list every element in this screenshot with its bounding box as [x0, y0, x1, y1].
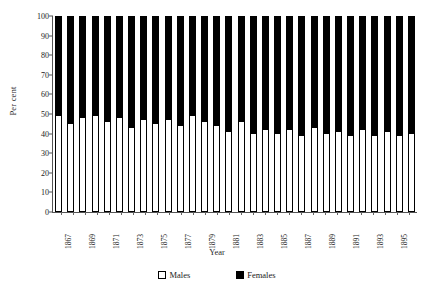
- bar-segment-males[interactable]: [79, 118, 86, 212]
- bar-1874[interactable]: [140, 16, 147, 212]
- bar-segment-males[interactable]: [213, 126, 220, 212]
- x-axis-tick-mark: [349, 212, 350, 215]
- bar-segment-males[interactable]: [311, 128, 318, 212]
- bar-segment-females[interactable]: [201, 16, 208, 122]
- bar-segment-males[interactable]: [408, 134, 415, 212]
- bar-1894[interactable]: [384, 16, 391, 212]
- x-axis-tick-mark: [301, 212, 302, 215]
- bar-1891[interactable]: [347, 16, 354, 212]
- bar-1890[interactable]: [335, 16, 342, 212]
- bar-segment-males[interactable]: [201, 122, 208, 212]
- bar-1878[interactable]: [189, 16, 196, 212]
- bar-segment-males[interactable]: [104, 122, 111, 212]
- bar-segment-females[interactable]: [250, 16, 257, 134]
- y-axis-tick-mark: [49, 212, 53, 213]
- bar-segment-females[interactable]: [347, 16, 354, 136]
- bar-segment-females[interactable]: [371, 16, 378, 136]
- bar-1883[interactable]: [250, 16, 257, 212]
- bar-segment-females[interactable]: [67, 16, 74, 124]
- chart-legend: Males Females: [0, 270, 434, 280]
- bar-1888[interactable]: [311, 16, 318, 212]
- bar-segment-males[interactable]: [140, 120, 147, 212]
- bar-segment-females[interactable]: [140, 16, 147, 120]
- bar-segment-females[interactable]: [384, 16, 391, 132]
- bar-segment-females[interactable]: [104, 16, 111, 122]
- bar-segment-males[interactable]: [128, 128, 135, 212]
- bar-segment-females[interactable]: [396, 16, 403, 136]
- bar-segment-males[interactable]: [262, 130, 269, 212]
- bar-segment-males[interactable]: [116, 118, 123, 212]
- bar-1868[interactable]: [67, 16, 74, 212]
- bar-1885[interactable]: [274, 16, 281, 212]
- x-axis-tick-mark: [325, 212, 326, 215]
- bar-segment-females[interactable]: [359, 16, 366, 130]
- bar-segment-males[interactable]: [384, 132, 391, 212]
- bar-segment-females[interactable]: [286, 16, 293, 130]
- bar-segment-males[interactable]: [55, 116, 62, 212]
- bar-1873[interactable]: [128, 16, 135, 212]
- bar-1880[interactable]: [213, 16, 220, 212]
- bar-segment-males[interactable]: [250, 134, 257, 212]
- bar-segment-females[interactable]: [55, 16, 62, 116]
- bar-segment-males[interactable]: [286, 130, 293, 212]
- bar-1879[interactable]: [201, 16, 208, 212]
- bar-1895[interactable]: [396, 16, 403, 212]
- bar-segment-females[interactable]: [335, 16, 342, 132]
- bar-segment-males[interactable]: [152, 124, 159, 212]
- bar-1886[interactable]: [286, 16, 293, 212]
- bar-segment-males[interactable]: [274, 134, 281, 212]
- bar-1872[interactable]: [116, 16, 123, 212]
- bar-segment-males[interactable]: [67, 124, 74, 212]
- bar-1893[interactable]: [371, 16, 378, 212]
- bar-segment-males[interactable]: [323, 134, 330, 212]
- bar-segment-males[interactable]: [298, 136, 305, 212]
- bar-1869[interactable]: [79, 16, 86, 212]
- bar-segment-females[interactable]: [165, 16, 172, 120]
- x-axis-tick-mark: [277, 212, 278, 215]
- bar-1889[interactable]: [323, 16, 330, 212]
- bar-segment-males[interactable]: [396, 136, 403, 212]
- bar-1876[interactable]: [165, 16, 172, 212]
- x-axis-tick-mark: [289, 212, 290, 215]
- bar-segment-females[interactable]: [298, 16, 305, 136]
- bar-segment-females[interactable]: [274, 16, 281, 134]
- bar-1871[interactable]: [104, 16, 111, 212]
- x-axis-tick-mark: [73, 212, 74, 215]
- bar-1887[interactable]: [298, 16, 305, 212]
- bar-segment-males[interactable]: [189, 116, 196, 212]
- bar-segment-females[interactable]: [177, 16, 184, 126]
- bar-segment-males[interactable]: [371, 136, 378, 212]
- bar-segment-females[interactable]: [92, 16, 99, 116]
- bar-segment-females[interactable]: [189, 16, 196, 116]
- bar-segment-females[interactable]: [408, 16, 415, 134]
- bar-segment-females[interactable]: [323, 16, 330, 134]
- bar-segment-males[interactable]: [359, 130, 366, 212]
- bar-segment-females[interactable]: [311, 16, 318, 128]
- bar-1867[interactable]: [55, 16, 62, 212]
- bar-1875[interactable]: [152, 16, 159, 212]
- bar-segment-males[interactable]: [335, 132, 342, 212]
- bar-segment-females[interactable]: [79, 16, 86, 118]
- bar-segment-females[interactable]: [262, 16, 269, 130]
- bar-segment-females[interactable]: [152, 16, 159, 124]
- bar-1884[interactable]: [262, 16, 269, 212]
- bar-segment-males[interactable]: [92, 116, 99, 212]
- bar-segment-males[interactable]: [238, 122, 245, 212]
- x-axis-tick-mark: [157, 212, 158, 215]
- y-axis-tick-label: 90: [19, 31, 49, 40]
- bar-segment-males[interactable]: [225, 132, 232, 212]
- bar-1882[interactable]: [238, 16, 245, 212]
- bar-segment-females[interactable]: [213, 16, 220, 126]
- bar-segment-females[interactable]: [238, 16, 245, 122]
- bar-1892[interactable]: [359, 16, 366, 212]
- bar-1896[interactable]: [408, 16, 415, 212]
- bar-segment-females[interactable]: [128, 16, 135, 128]
- bar-1870[interactable]: [92, 16, 99, 212]
- bar-segment-females[interactable]: [116, 16, 123, 118]
- bar-segment-males[interactable]: [165, 120, 172, 212]
- bar-1881[interactable]: [225, 16, 232, 212]
- bar-segment-males[interactable]: [347, 136, 354, 212]
- bar-1877[interactable]: [177, 16, 184, 212]
- bar-segment-females[interactable]: [225, 16, 232, 132]
- bar-segment-males[interactable]: [177, 126, 184, 212]
